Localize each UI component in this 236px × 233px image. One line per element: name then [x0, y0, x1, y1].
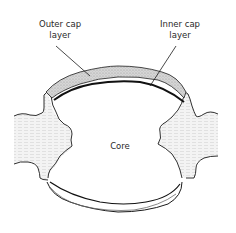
outer-cap-layer-bottom — [47, 182, 182, 212]
right-tissue — [158, 92, 218, 178]
outer-cap-leader-line — [56, 46, 90, 76]
inner-cap-layer-label: Inner cap layer — [150, 19, 210, 41]
core-label: Core — [100, 141, 140, 152]
inner-cap-label-line2: layer — [150, 30, 210, 41]
outer-cap-layer-label: Outer cap layer — [30, 19, 90, 41]
inner-cap-layer-bottom — [50, 182, 180, 204]
inner-cap-label-line1: Inner cap — [150, 19, 210, 30]
outer-cap-label-line1: Outer cap — [30, 19, 90, 30]
left-tissue — [14, 92, 72, 180]
outer-cap-label-line2: layer — [30, 30, 90, 41]
